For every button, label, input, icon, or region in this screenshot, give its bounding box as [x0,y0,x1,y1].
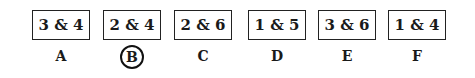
option-letter-circled: B [103,48,161,69]
option-e[interactable]: 3 & 6 E [318,10,376,40]
option-value-box: 2 & 4 [103,10,161,40]
option-a[interactable]: 3 & 4 A [32,10,90,40]
option-letter: C [174,48,232,64]
option-value-box: 1 & 4 [388,10,446,40]
option-value-box: 2 & 6 [174,10,232,40]
option-value-box: 1 & 5 [248,10,306,40]
option-letter: E [318,48,376,64]
option-value-box: 3 & 6 [318,10,376,40]
option-b[interactable]: 2 & 4 B [103,10,161,40]
option-letter: A [32,48,90,64]
option-f[interactable]: 1 & 4 F [388,10,446,40]
option-letter: D [248,48,306,64]
selected-circle-mark: B [120,45,144,69]
option-c[interactable]: 2 & 6 C [174,10,232,40]
option-d[interactable]: 1 & 5 D [248,10,306,40]
option-value-box: 3 & 4 [32,10,90,40]
option-letter: F [388,48,446,64]
